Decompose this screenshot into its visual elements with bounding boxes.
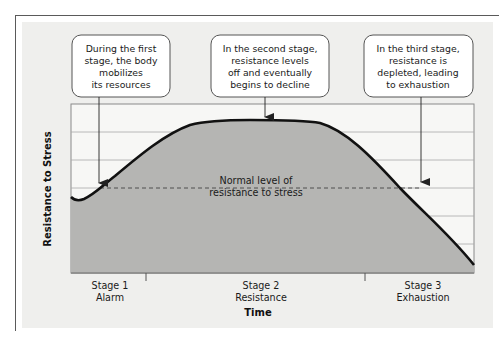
stress-diagram: During the first stage, the body mobiliz…: [0, 0, 499, 338]
normal-level-label-line-2: resistance to stress: [209, 187, 302, 198]
callout-1-line-1: During the first: [86, 43, 157, 54]
callout-3-line-3: depleted, leading: [377, 67, 458, 78]
callout-stage-1: During the first stage, the body mobiliz…: [72, 35, 170, 97]
callout-1-line-2: stage, the body: [85, 55, 158, 66]
stage-2-label: Resistance: [235, 292, 287, 303]
y-axis-title: Resistance to Stress: [42, 131, 53, 246]
callout-2-line-3: off and eventually: [228, 67, 313, 78]
callout-3-line-1: In the third stage,: [376, 43, 459, 54]
callout-2-line-1: In the second stage,: [223, 43, 318, 54]
stage-3-name: Stage 3: [405, 280, 442, 291]
callout-stage-3: In the third stage, resistance is deplet…: [364, 35, 473, 97]
callout-2-line-2: resistance levels: [231, 55, 309, 66]
normal-level-label-line-1: Normal level of: [220, 175, 293, 186]
stage-1-label: Alarm: [96, 292, 124, 303]
stage-2-name: Stage 2: [243, 280, 280, 291]
stage-3-label: Exhaustion: [396, 292, 449, 303]
stage-1-name: Stage 1: [92, 280, 129, 291]
callout-1-line-3: mobilizes: [99, 67, 143, 78]
callout-stage-2: In the second stage, resistance levels o…: [211, 35, 329, 97]
callout-2-line-4: begins to decline: [230, 79, 310, 90]
callout-1-line-4: its resources: [91, 79, 150, 90]
x-axis-title: Time: [244, 307, 272, 318]
callout-3-line-2: resistance is: [389, 55, 447, 66]
callout-3-line-4: to exhaustion: [386, 79, 450, 90]
